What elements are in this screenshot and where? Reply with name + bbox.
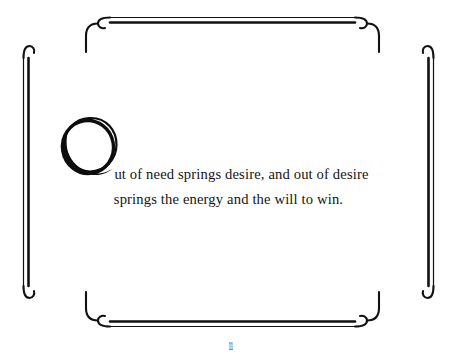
book-page: ut of need springs desire, and out of de… <box>0 0 461 363</box>
quote-text: ut of need springs desire, and out of de… <box>20 162 437 212</box>
quote-line-2: springs the energy and the will to win. <box>20 187 437 212</box>
page-number: 11 <box>134 338 328 353</box>
page-content: ut of need springs desire, and out of de… <box>20 14 437 330</box>
quote-line-1: ut of need springs desire, and out of de… <box>20 162 437 187</box>
